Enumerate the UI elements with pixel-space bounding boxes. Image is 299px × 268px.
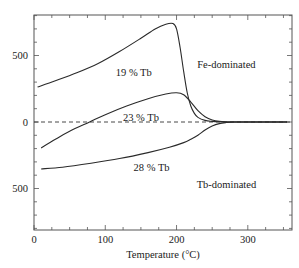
data-series: [38, 23, 287, 169]
y-tick-label: 500: [12, 50, 28, 61]
curve-labels: 19 % Tb23 % Tb28 % Tb: [116, 67, 170, 172]
x-tick-label: 100: [97, 234, 113, 245]
curve-label: 28 % Tb: [134, 162, 170, 173]
region-label: Fe-dominated: [197, 59, 256, 70]
curve-label: 19 % Tb: [116, 67, 152, 78]
x-tick-label: 300: [240, 234, 256, 245]
x-tick-label: 0: [31, 234, 36, 245]
series-line-23-pct-tb: [41, 93, 287, 148]
region-annotations: Fe-dominatedTb-dominated: [197, 59, 257, 190]
x-tick-label: 200: [169, 234, 185, 245]
curve-label: 23 % Tb: [123, 112, 159, 123]
chart: 01002003005000500 19 % Tb23 % Tb28 % Tb …: [0, 0, 299, 268]
x-axis-label: Temperature (°C): [126, 249, 200, 261]
region-label: Tb-dominated: [197, 179, 257, 190]
axis-tick-labels: 01002003005000500: [12, 50, 255, 245]
y-tick-label: 0: [23, 117, 28, 128]
series-line-19-pct-tb: [38, 23, 287, 122]
y-tick-label: 500: [12, 183, 28, 194]
